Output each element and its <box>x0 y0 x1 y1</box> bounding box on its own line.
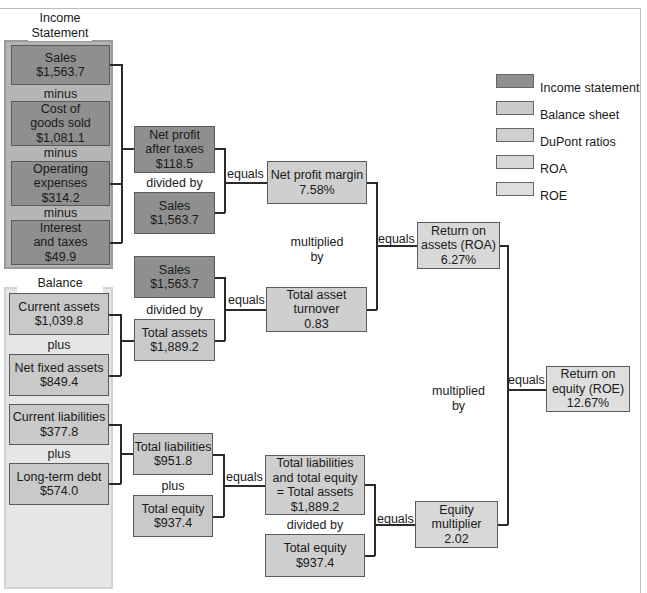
sales2-value: $1,563.7 <box>150 213 199 228</box>
current-assets-value: $1,039.8 <box>35 314 84 329</box>
npm-label: Net profit margin <box>271 168 363 183</box>
long-term-debt-value: $574.0 <box>40 484 78 499</box>
op-minus-1: minus <box>11 87 110 102</box>
em-label1: Equity <box>439 503 474 518</box>
legend-label-roe: ROE <box>540 189 567 203</box>
roe-label2: equity (ROE) <box>552 382 624 397</box>
npm-value: 7.58% <box>299 183 334 198</box>
sales-box-2: Sales $1,563.7 <box>134 192 215 234</box>
current-liabilities-box: Current liabilities $377.8 <box>9 404 109 445</box>
connector-line <box>507 245 509 525</box>
operating-expenses-box: Operating expenses $314.2 <box>11 161 110 206</box>
connector-line <box>120 453 133 455</box>
roa-label2: assets (ROA) <box>421 238 496 253</box>
op-plus-2: plus <box>9 447 109 462</box>
total-liabilities-value: $951.8 <box>154 454 192 469</box>
sales-box: Sales $1,563.7 <box>11 45 110 85</box>
op-minus-3: minus <box>11 206 110 221</box>
connector-line <box>120 314 122 376</box>
roa-box: Return on assets (ROA) 6.27% <box>417 222 500 269</box>
multiplied-by-1-line2: by <box>267 250 367 265</box>
legend-swatch-income-statement <box>496 74 534 88</box>
sales-box-3: Sales $1,563.7 <box>134 256 215 298</box>
cogs-label1: Cost of <box>41 102 81 117</box>
multiplied-by-2: multiplied by <box>417 384 500 413</box>
multiplied-by-2-line1: multiplied <box>417 384 500 399</box>
income-title-line2: Statement <box>31 26 89 41</box>
connector-line <box>224 182 267 184</box>
opex-value: $314.2 <box>41 191 79 206</box>
connector-line <box>374 524 415 526</box>
interest-label2: and taxes <box>33 235 87 250</box>
frame-right-border <box>640 8 641 593</box>
total-assets-box: Total assets $1,889.2 <box>134 319 215 361</box>
sales-label: Sales <box>45 51 76 66</box>
roa-label1: Return on <box>431 224 486 239</box>
op-divided-by-2: divided by <box>134 303 215 318</box>
equals-label-6: equals <box>508 373 545 388</box>
sales3-label: Sales <box>159 263 190 278</box>
net-fixed-assets-value: $849.4 <box>40 375 78 390</box>
tlte-label1: Total liabilities <box>276 456 353 471</box>
connector-line <box>120 340 134 342</box>
interest-value: $49.9 <box>45 250 76 265</box>
total-equity-label: Total equity <box>141 502 204 517</box>
connector-line <box>507 389 546 391</box>
legend-swatch-roa <box>496 155 534 169</box>
total-equity-value: $937.4 <box>154 516 192 531</box>
equals-label-1: equals <box>227 167 264 182</box>
connector-line <box>224 309 266 311</box>
legend-label-roa: ROA <box>540 162 567 176</box>
connector-line <box>121 64 123 243</box>
multiplied-by-1-line1: multiplied <box>267 235 367 250</box>
current-liabilities-value: $377.8 <box>40 425 78 440</box>
roe-value: 12.67% <box>567 396 609 411</box>
net-profit-after-taxes-box: Net profit after taxes $118.5 <box>134 126 215 173</box>
roe-label1: Return on <box>561 367 616 382</box>
connector-line <box>121 148 134 150</box>
current-liabilities-label: Current liabilities <box>13 410 105 425</box>
net-profit-margin-box: Net profit margin 7.58% <box>267 161 367 204</box>
tlte-label2: and total equity <box>273 471 358 486</box>
total-liabilities-and-equity-box: Total liabilities and total equity = Tot… <box>265 455 365 515</box>
equals-label-3: equals <box>226 470 263 485</box>
legend-label-balance-sheet: Balance sheet <box>540 108 619 122</box>
em-label2: multiplier <box>431 517 481 532</box>
roa-value: 6.27% <box>441 253 476 268</box>
equity-multiplier-box: Equity multiplier 2.02 <box>415 501 498 548</box>
interest-taxes-box: Interest and taxes $49.9 <box>11 220 110 265</box>
total-assets-value: $1,889.2 <box>150 340 199 355</box>
income-title-line1: Income <box>31 11 89 26</box>
op-divided-by-3: divided by <box>265 518 365 533</box>
total-equity2-label: Total equity <box>283 541 346 556</box>
op-plus-1: plus <box>9 338 109 353</box>
total-asset-turnover-box: Total asset turnover 0.83 <box>266 287 367 332</box>
equals-label-2: equals <box>228 293 265 308</box>
tat-label2: turnover <box>294 302 340 317</box>
op-plus-3: plus <box>133 479 213 494</box>
legend-label-dupont-ratios: DuPont ratios <box>540 135 616 149</box>
legend-swatch-roe <box>496 182 534 196</box>
tat-value: 0.83 <box>304 317 328 332</box>
total-equity-box: Total equity $937.4 <box>133 495 213 537</box>
multiplied-by-1: multiplied by <box>267 235 367 264</box>
interest-label1: Interest <box>40 221 82 236</box>
roe-box: Return on equity (ROE) 12.67% <box>546 366 630 412</box>
em-value: 2.02 <box>444 532 468 547</box>
opex-label1: Operating <box>33 162 88 177</box>
total-assets-label: Total assets <box>141 326 207 341</box>
connector-line <box>374 484 376 556</box>
cogs-box: Cost of goods sold $1,081.1 <box>11 101 110 146</box>
connector-line <box>223 485 265 487</box>
sales-value: $1,563.7 <box>36 65 85 80</box>
total-equity2-value: $937.4 <box>296 556 334 571</box>
opex-label2: expenses <box>34 176 88 191</box>
total-liabilities-label: Total liabilities <box>134 440 211 455</box>
multiplied-by-2-line2: by <box>417 399 500 414</box>
tat-label1: Total asset <box>287 288 347 303</box>
legend-swatch-dupont-ratios <box>496 128 534 142</box>
sales2-label: Sales <box>159 199 190 214</box>
frame-top-border <box>0 8 641 9</box>
long-term-debt-box: Long-term debt $574.0 <box>9 463 109 505</box>
total-liabilities-box: Total liabilities $951.8 <box>133 433 213 475</box>
